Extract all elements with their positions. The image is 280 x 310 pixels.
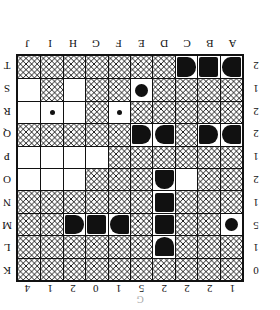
grid-cell-EO[interactable] — [130, 168, 152, 190]
grid-cell-FO[interactable] — [108, 168, 130, 190]
grid-cell-CP[interactable] — [175, 146, 197, 168]
grid-cell-HO[interactable] — [63, 168, 85, 190]
grid-cell-ET[interactable] — [130, 56, 152, 78]
grid-cell-GM[interactable] — [85, 213, 107, 235]
grid-cell-JS[interactable] — [18, 78, 40, 100]
grid-cell-DL[interactable] — [152, 235, 174, 257]
grid-cell-DR[interactable] — [152, 101, 174, 123]
grid-cell-IO[interactable] — [40, 168, 62, 190]
grid-cell-DQ[interactable] — [152, 123, 174, 145]
grid-cell-BO[interactable] — [197, 168, 219, 190]
grid-cell-FS[interactable] — [108, 78, 130, 100]
grid-cell-GS[interactable] — [85, 78, 107, 100]
grid-cell-CK[interactable] — [175, 258, 197, 280]
grid-cell-DO[interactable] — [152, 168, 174, 190]
grid-cell-JM[interactable] — [18, 213, 40, 235]
grid-cell-AS[interactable] — [220, 78, 242, 100]
grid-cell-JL[interactable] — [18, 235, 40, 257]
grid-cell-HM[interactable] — [63, 213, 85, 235]
grid-cell-EM[interactable] — [130, 213, 152, 235]
grid-cell-IS[interactable] — [40, 78, 62, 100]
grid-cell-BP[interactable] — [197, 146, 219, 168]
grid-cell-EL[interactable] — [130, 235, 152, 257]
grid-cell-JO[interactable] — [18, 168, 40, 190]
grid-cell-FT[interactable] — [108, 56, 130, 78]
grid-cell-GQ[interactable] — [85, 123, 107, 145]
grid-cell-AO[interactable] — [220, 168, 242, 190]
grid-cell-FP[interactable] — [108, 146, 130, 168]
grid-cell-BL[interactable] — [197, 235, 219, 257]
grid-cell-JT[interactable] — [18, 56, 40, 78]
grid-cell-EK[interactable] — [130, 258, 152, 280]
grid-cell-IM[interactable] — [40, 213, 62, 235]
grid-cell-FR[interactable] — [108, 101, 130, 123]
grid-cell-CQ[interactable] — [175, 123, 197, 145]
grid-cell-JP[interactable] — [18, 146, 40, 168]
grid-cell-GT[interactable] — [85, 56, 107, 78]
grid-cell-HP[interactable] — [63, 146, 85, 168]
grid-cell-AP[interactable] — [220, 146, 242, 168]
grid-cell-CT[interactable] — [175, 56, 197, 78]
grid-cell-IQ[interactable] — [40, 123, 62, 145]
grid-cell-BS[interactable] — [197, 78, 219, 100]
grid-cell-IL[interactable] — [40, 235, 62, 257]
grid-cell-GN[interactable] — [85, 190, 107, 212]
grid-cell-ER[interactable] — [130, 101, 152, 123]
grid-cell-DS[interactable] — [152, 78, 174, 100]
grid-cell-EP[interactable] — [130, 146, 152, 168]
grid-cell-CR[interactable] — [175, 101, 197, 123]
grid-cell-CL[interactable] — [175, 235, 197, 257]
grid-cell-AT[interactable] — [220, 56, 242, 78]
grid-cell-EN[interactable] — [130, 190, 152, 212]
grid-cell-HL[interactable] — [63, 235, 85, 257]
grid-cell-JQ[interactable] — [18, 123, 40, 145]
grid-cell-DN[interactable] — [152, 190, 174, 212]
grid-cell-DP[interactable] — [152, 146, 174, 168]
grid-cell-CM[interactable] — [175, 213, 197, 235]
grid-cell-FM[interactable] — [108, 213, 130, 235]
grid-cell-IK[interactable] — [40, 258, 62, 280]
grid-cell-AQ[interactable] — [220, 123, 242, 145]
grid-cell-GP[interactable] — [85, 146, 107, 168]
grid-cell-AN[interactable] — [220, 190, 242, 212]
grid-cell-DT[interactable] — [152, 56, 174, 78]
grid-cell-JK[interactable] — [18, 258, 40, 280]
grid-cell-DK[interactable] — [152, 258, 174, 280]
grid-cell-ES[interactable] — [130, 78, 152, 100]
grid-cell-GR[interactable] — [85, 101, 107, 123]
grid-cell-FL[interactable] — [108, 235, 130, 257]
grid-cell-CN[interactable] — [175, 190, 197, 212]
grid-cell-HS[interactable] — [63, 78, 85, 100]
grid-cell-CO[interactable] — [175, 168, 197, 190]
grid-cell-AR[interactable] — [220, 101, 242, 123]
grid-cell-GL[interactable] — [85, 235, 107, 257]
grid-cell-BN[interactable] — [197, 190, 219, 212]
grid-cell-AK[interactable] — [220, 258, 242, 280]
grid-cell-FK[interactable] — [108, 258, 130, 280]
grid-cell-IP[interactable] — [40, 146, 62, 168]
grid-cell-HK[interactable] — [63, 258, 85, 280]
grid-cell-FN[interactable] — [108, 190, 130, 212]
grid-cell-BM[interactable] — [197, 213, 219, 235]
grid-cell-BK[interactable] — [197, 258, 219, 280]
grid-cell-DM[interactable] — [152, 213, 174, 235]
grid-cell-GK[interactable] — [85, 258, 107, 280]
grid-cell-BQ[interactable] — [197, 123, 219, 145]
grid-cell-HR[interactable] — [63, 101, 85, 123]
grid-cell-HN[interactable] — [63, 190, 85, 212]
grid-cell-FQ[interactable] — [108, 123, 130, 145]
grid-cell-EQ[interactable] — [130, 123, 152, 145]
grid-cell-CS[interactable] — [175, 78, 197, 100]
grid-cell-IT[interactable] — [40, 56, 62, 78]
grid-cell-HQ[interactable] — [63, 123, 85, 145]
grid-cell-BR[interactable] — [197, 101, 219, 123]
grid-cell-IN[interactable] — [40, 190, 62, 212]
grid-cell-JR[interactable] — [18, 101, 40, 123]
grid-cell-JN[interactable] — [18, 190, 40, 212]
grid-cell-BT[interactable] — [197, 56, 219, 78]
grid-cell-IR[interactable] — [40, 101, 62, 123]
grid-cell-AM[interactable] — [220, 213, 242, 235]
grid-cell-GO[interactable] — [85, 168, 107, 190]
grid-cell-HT[interactable] — [63, 56, 85, 78]
grid-cell-AL[interactable] — [220, 235, 242, 257]
